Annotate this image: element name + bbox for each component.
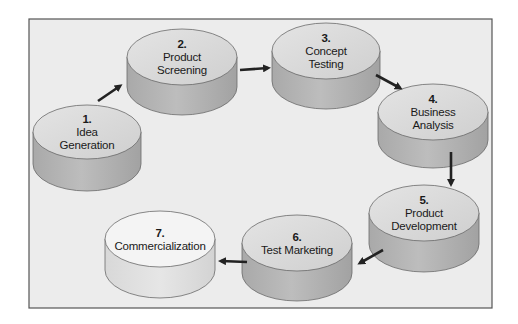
stage-label: Business <box>410 106 456 118</box>
stage-number: 5. <box>419 194 428 206</box>
stage-number: 1. <box>82 113 91 125</box>
process-diagram: 1.IdeaGeneration2.ProductScreening3.Conc… <box>0 0 518 324</box>
stage-1: 1.IdeaGeneration <box>33 105 141 191</box>
stage-2: 2.ProductScreening <box>127 29 237 115</box>
stage-number: 6. <box>292 231 301 243</box>
stage-6: 6.Test Marketing <box>242 215 352 301</box>
stage-label: Generation <box>60 139 115 151</box>
stage-4: 4.BusinessAnalysis <box>378 84 488 168</box>
stage-label: Product <box>163 51 202 63</box>
arrow-6-to-7-icon <box>221 261 247 262</box>
stage-3: 3.ConceptTesting <box>272 23 380 109</box>
stage-number: 4. <box>428 93 437 105</box>
stage-number: 7. <box>155 227 164 239</box>
stage-label: Screening <box>157 64 207 76</box>
stage-label: Commercialization <box>114 240 205 252</box>
stage-number: 2. <box>177 38 186 50</box>
stage-label: Testing <box>308 58 343 70</box>
stage-5: 5.ProductDevelopment <box>369 185 479 272</box>
stage-label: Product <box>405 207 444 219</box>
stage-label: Concept <box>305 45 347 57</box>
stage-label: Test Marketing <box>261 244 333 256</box>
stage-7: 7.Commercialization <box>105 211 215 298</box>
stage-label: Idea <box>76 126 98 138</box>
stage-label: Analysis <box>412 119 454 131</box>
stage-label: Development <box>391 220 458 232</box>
stage-number: 3. <box>321 32 330 44</box>
